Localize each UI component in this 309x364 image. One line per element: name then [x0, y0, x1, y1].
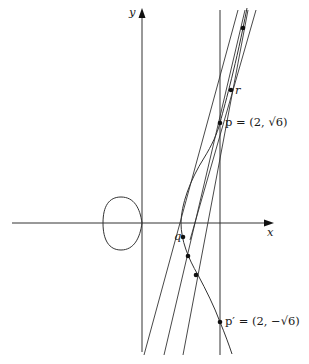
point-p	[218, 121, 223, 126]
point-p-label: p = (2, √6)	[225, 117, 288, 129]
line-p-point2	[164, 10, 245, 355]
point-top	[241, 26, 246, 31]
point-q-label: q	[174, 231, 181, 243]
y-axis-label: y	[129, 7, 136, 19]
line-p-q	[144, 10, 238, 355]
axes	[12, 14, 268, 352]
x-axis-label: x	[267, 227, 274, 239]
y-axis-arrow-icon	[139, 8, 146, 18]
point-p-prime	[218, 320, 223, 325]
secant-lines	[144, 10, 256, 355]
point-q	[181, 235, 186, 240]
elliptic-curve-diagram	[0, 0, 309, 364]
point-p-prime-label: p′ = (2, −√6)	[225, 316, 300, 328]
point-r-label: r	[235, 85, 241, 97]
curve-right-branch	[181, 8, 247, 354]
point-r	[229, 88, 234, 93]
points	[181, 26, 246, 325]
point-3	[194, 273, 199, 278]
point-2	[186, 254, 191, 259]
line-p-point3	[183, 10, 248, 355]
